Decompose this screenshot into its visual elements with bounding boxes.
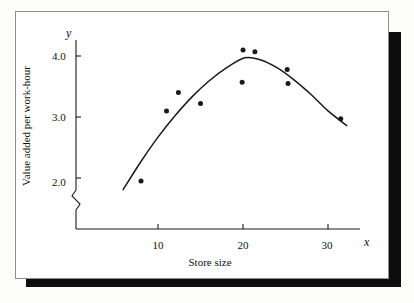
- xtick-label-20: 20: [238, 239, 249, 251]
- ytick-label-4: 4.0: [52, 50, 66, 62]
- x-axis-title: Store size: [150, 256, 270, 268]
- figure-card: [15, 11, 389, 279]
- y-axis-symbol: y: [66, 26, 71, 41]
- ytick-label-3: 3.0: [52, 111, 66, 123]
- figure-root: 4.0 3.0 2.0 10 20 30 y x Value added per…: [0, 0, 414, 303]
- xtick-label-10: 10: [153, 239, 164, 251]
- y-axis-title: Value added per work-hour: [20, 56, 32, 196]
- card-shadow-right: [388, 32, 401, 287]
- x-axis-symbol: x: [364, 235, 369, 250]
- ytick-label-2: 2.0: [52, 176, 66, 188]
- xtick-label-30: 30: [322, 239, 333, 251]
- card-shadow-bottom: [26, 278, 401, 287]
